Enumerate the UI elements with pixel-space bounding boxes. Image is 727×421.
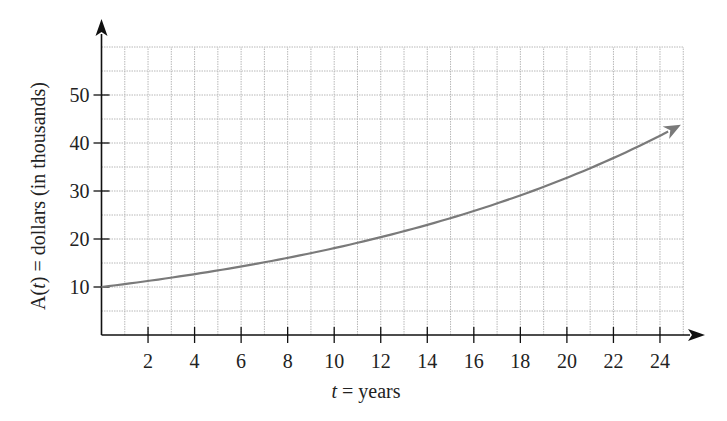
y-tick-label: 40 bbox=[70, 132, 90, 154]
x-tick-label: 22 bbox=[603, 350, 623, 372]
x-tick-label: 10 bbox=[324, 350, 344, 372]
x-tick-label: 24 bbox=[650, 350, 670, 372]
y-tick-label: 10 bbox=[70, 276, 90, 298]
x-tick-label: 14 bbox=[417, 350, 437, 372]
x-tick-label: 8 bbox=[283, 350, 293, 372]
x-tick-label: 4 bbox=[190, 350, 200, 372]
x-axis-arrow-icon bbox=[688, 329, 705, 341]
y-axis-arrow-icon bbox=[96, 19, 108, 36]
y-tick-label: 30 bbox=[70, 180, 90, 202]
x-tick-label: 16 bbox=[464, 350, 484, 372]
x-tick-label: 6 bbox=[236, 350, 246, 372]
exponential-growth-chart: 24681012141618202224 1020304050 t = year… bbox=[0, 0, 727, 421]
x-tick-label: 2 bbox=[143, 350, 153, 372]
y-tick-label: 50 bbox=[70, 84, 90, 106]
y-tick-label: 20 bbox=[70, 228, 90, 250]
y-tick-labels: 1020304050 bbox=[70, 84, 90, 298]
grid bbox=[102, 47, 684, 335]
x-axis-title-text: = years bbox=[337, 380, 401, 403]
y-axis-title: A(t) = dollars (in thousands) bbox=[27, 82, 50, 310]
growth-curve bbox=[102, 132, 669, 287]
x-axis-title: t = years bbox=[331, 380, 400, 403]
y-axis-title-text: ) = dollars (in thousands) bbox=[27, 82, 50, 283]
x-tick-labels: 24681012141618202224 bbox=[143, 350, 670, 372]
tick-marks bbox=[94, 95, 660, 343]
x-tick-label: 18 bbox=[510, 350, 530, 372]
x-tick-label: 20 bbox=[557, 350, 577, 372]
x-tick-label: 12 bbox=[371, 350, 391, 372]
y-axis-title-a: A( bbox=[27, 289, 50, 310]
